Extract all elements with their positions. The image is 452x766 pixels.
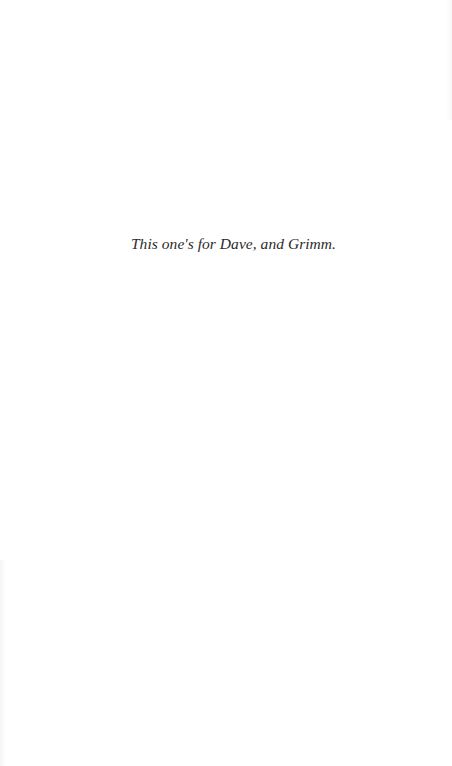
dedication-text: This one's for Dave, and Grimm. [0,234,452,254]
scan-shadow-right [446,0,452,120]
book-page: This one's for Dave, and Grimm. [0,0,452,766]
scan-shadow-left [0,560,6,766]
